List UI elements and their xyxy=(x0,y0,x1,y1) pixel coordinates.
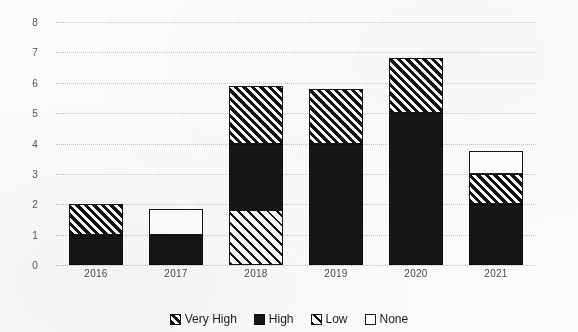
plot-area xyxy=(56,22,536,265)
x-tick-label: 2020 xyxy=(404,268,427,279)
bar-segment-high[interactable] xyxy=(149,235,203,265)
x-tick-label: 2019 xyxy=(324,268,347,279)
y-tick-label: 6 xyxy=(32,77,38,88)
chart-figure: 012345678 201620172018201920202021 Very … xyxy=(0,0,578,332)
legend-item[interactable]: High xyxy=(254,312,294,326)
legend-item[interactable]: Low xyxy=(311,312,348,326)
bar-group[interactable] xyxy=(149,209,203,265)
bar-segment-high[interactable] xyxy=(229,144,283,211)
x-tick-label: 2016 xyxy=(84,268,107,279)
bar-group[interactable] xyxy=(69,204,123,265)
swatch-low-icon xyxy=(311,314,322,325)
legend-item[interactable]: None xyxy=(365,312,409,326)
legend-label: Low xyxy=(326,312,348,326)
bar-segment-none[interactable] xyxy=(149,209,203,235)
y-tick-label: 1 xyxy=(32,229,38,240)
y-tick-label: 8 xyxy=(32,17,38,28)
legend-label: None xyxy=(380,312,409,326)
bar-segment-very-high[interactable] xyxy=(469,174,523,204)
y-tick-label: 4 xyxy=(32,138,38,149)
chart-legend: Very HighHighLowNone xyxy=(0,312,578,326)
gridline xyxy=(56,265,536,266)
bar-segment-low[interactable] xyxy=(229,210,283,265)
bar-segment-high[interactable] xyxy=(469,204,523,265)
bar-segment-high[interactable] xyxy=(389,113,443,265)
y-tick-label: 0 xyxy=(32,260,38,271)
x-axis: 201620172018201920202021 xyxy=(56,268,536,290)
legend-item[interactable]: Very High xyxy=(170,312,237,326)
bar-series-container xyxy=(56,22,536,265)
y-tick-label: 5 xyxy=(32,108,38,119)
bar-group[interactable] xyxy=(229,86,283,265)
bar-segment-none[interactable] xyxy=(469,151,523,174)
x-tick-label: 2017 xyxy=(164,268,187,279)
bar-segment-very-high[interactable] xyxy=(389,58,443,113)
bar-group[interactable] xyxy=(309,89,363,265)
bar-segment-very-high[interactable] xyxy=(229,86,283,144)
bar-group[interactable] xyxy=(389,58,443,265)
swatch-none-icon xyxy=(365,314,376,325)
legend-label: High xyxy=(269,312,294,326)
x-tick-label: 2018 xyxy=(244,268,267,279)
y-axis: 012345678 xyxy=(0,0,56,265)
bar-segment-high[interactable] xyxy=(69,235,123,265)
bar-segment-very-high[interactable] xyxy=(309,89,363,144)
bar-segment-high[interactable] xyxy=(309,144,363,266)
y-tick-label: 2 xyxy=(32,199,38,210)
legend-label: Very High xyxy=(185,312,237,326)
y-tick-label: 3 xyxy=(32,168,38,179)
bar-group[interactable] xyxy=(469,151,523,265)
x-tick-label: 2021 xyxy=(484,268,507,279)
bar-segment-very-high[interactable] xyxy=(69,204,123,234)
swatch-very-high-icon xyxy=(170,314,181,325)
y-tick-label: 7 xyxy=(32,47,38,58)
swatch-high-icon xyxy=(254,314,265,325)
